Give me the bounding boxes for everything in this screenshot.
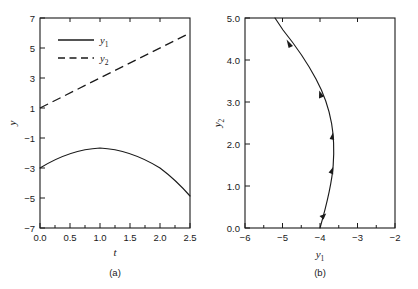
x-ticklabel: 0.0	[33, 232, 46, 243]
y-ticklabel: 0.0	[227, 223, 240, 234]
direction-arrow-icon	[329, 167, 334, 175]
y-ticklabel: 7	[30, 13, 35, 24]
x-ticklabel: −6	[240, 232, 251, 243]
panel-a-xaxis-label: t	[113, 246, 117, 258]
y-ticklabel: 1	[30, 103, 35, 114]
panel-b-y-ticks	[245, 18, 250, 228]
panel-b-yaxis-label: y2	[211, 118, 226, 128]
panel-a-x-ticks-top	[70, 18, 160, 22]
x-ticklabel: −5	[277, 232, 288, 243]
y-ticklabel: −3	[24, 163, 35, 174]
x-ticklabel: −4	[315, 232, 326, 243]
panel-b-x-ticklabels: −6 −5 −4 −3 −2	[240, 232, 401, 243]
panel-a-legend: y1 y2	[58, 35, 109, 67]
x-ticklabel: 1.0	[93, 232, 106, 243]
panel-b: 5.0 4.0 3.0 2.0 1.0 0.0	[209, 0, 418, 289]
panel-b-y-ticklabels: 5.0 4.0 3.0 2.0 1.0 0.0	[227, 13, 240, 234]
y-ticklabel: 5	[30, 43, 35, 54]
y-ticklabel: 3	[30, 73, 35, 84]
x-ticklabel: 2.5	[183, 232, 196, 243]
series-y2-line	[40, 33, 190, 108]
y-ticklabel: 3.0	[227, 97, 240, 108]
panel-a-svg: 7 5 3 1 −1 −3 −5 −7	[0, 0, 209, 289]
panel-a-y-ticks	[40, 18, 45, 228]
panel-a-y-ticklabels: 7 5 3 1 −1 −3 −5 −7	[24, 13, 35, 234]
x-ticklabel: −2	[390, 232, 401, 243]
x-ticklabel: −3	[352, 232, 363, 243]
y-ticklabel: 1.0	[227, 181, 240, 192]
direction-arrow-icon	[320, 214, 327, 220]
panel-b-caption: (b)	[314, 267, 326, 278]
phase-trajectory	[275, 18, 334, 228]
y-ticklabel: 2.0	[227, 139, 240, 150]
legend-label-y2: y2	[99, 53, 109, 67]
panel-a-caption: (a)	[109, 267, 121, 278]
x-ticklabel: 0.5	[63, 232, 76, 243]
panel-a-x-ticks	[40, 223, 190, 228]
series-y1-curve	[40, 148, 190, 196]
y-ticklabel: 4.0	[227, 55, 240, 66]
legend-label-y1: y1	[99, 35, 109, 49]
panel-a-yaxis-label: y	[6, 120, 18, 126]
y-ticklabel: −1	[24, 133, 35, 144]
figure-container: 7 5 3 1 −1 −3 −5 −7	[0, 0, 418, 289]
direction-arrows	[287, 40, 335, 220]
panel-a-plot-frame	[40, 18, 190, 228]
panel-a: 7 5 3 1 −1 −3 −5 −7	[0, 0, 209, 289]
panel-a-x-ticklabels: 0.0 0.5 1.0 1.5 2.0 2.5	[33, 232, 196, 243]
panel-b-svg: 5.0 4.0 3.0 2.0 1.0 0.0	[209, 0, 418, 289]
panel-b-plot-frame	[245, 18, 395, 228]
y-ticklabel: 5.0	[227, 13, 240, 24]
panel-b-xaxis-label: y1	[315, 248, 325, 263]
x-ticklabel: 2.0	[153, 232, 166, 243]
y-ticklabel: −5	[24, 193, 35, 204]
panel-b-x-ticks-top	[283, 18, 358, 22]
x-ticklabel: 1.5	[123, 232, 136, 243]
